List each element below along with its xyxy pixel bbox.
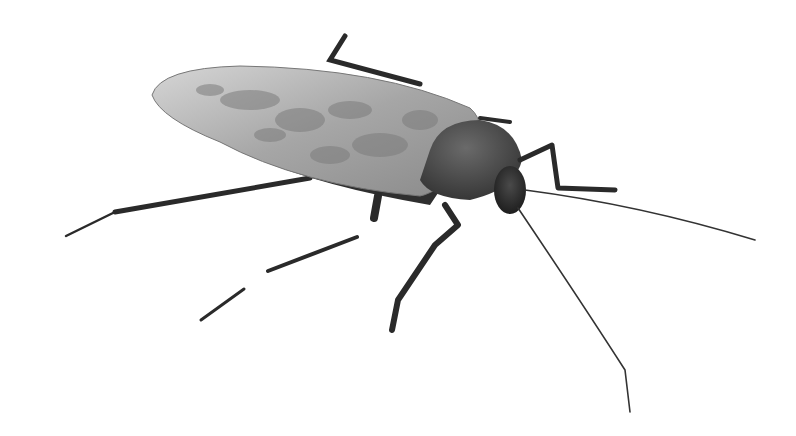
hind-leg-left <box>66 178 310 236</box>
cockroach-illustration <box>0 0 796 436</box>
antennae <box>518 190 755 412</box>
head <box>494 166 526 214</box>
mid-leg <box>374 196 458 330</box>
hind-leg-segments <box>201 237 357 320</box>
